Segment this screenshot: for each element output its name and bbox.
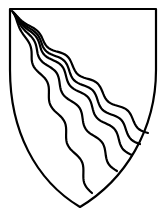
shield-figure (0, 0, 166, 216)
